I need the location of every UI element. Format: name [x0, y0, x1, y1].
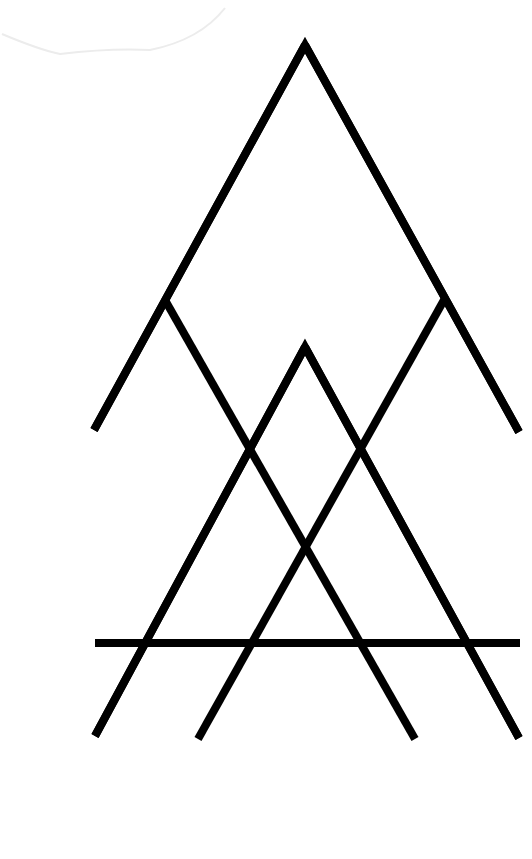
triangle-line-art — [0, 0, 532, 859]
background — [0, 0, 532, 859]
